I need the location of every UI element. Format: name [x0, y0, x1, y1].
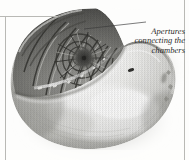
rule-left — [5, 16, 6, 160]
nautilus-figure: Apertures connecting the chambers — [0, 0, 189, 160]
rule-top — [0, 16, 58, 17]
nautilus-shell-photograph — [0, 0, 189, 160]
annotation-apertures: Apertures connecting the chambers — [113, 27, 185, 55]
annotation-line-3: chambers — [113, 46, 185, 55]
rule-right — [184, 0, 185, 160]
